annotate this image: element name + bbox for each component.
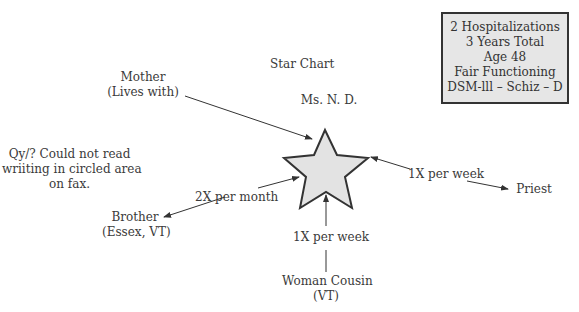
fax-note: Qy/? Could not read wriiting in circled … bbox=[2, 147, 137, 192]
node-priest: Priest bbox=[514, 182, 554, 197]
edge-label-brother: 2X per month bbox=[195, 190, 275, 205]
node-mother-detail: (Lives with) bbox=[98, 85, 188, 100]
node-cousin: Woman Cousin (VT) bbox=[282, 274, 370, 304]
node-brother: Brother (Essex, VT) bbox=[102, 210, 168, 240]
node-mother: Mother (Lives with) bbox=[98, 70, 188, 100]
priest-arrow-to-star bbox=[371, 157, 410, 169]
fax-note-line: Qy/? Could not read bbox=[2, 147, 137, 162]
chart-title: Star Chart bbox=[270, 57, 334, 72]
subject-name: Ms. N. D. bbox=[299, 93, 359, 108]
info-line: 3 Years Total bbox=[443, 35, 567, 50]
edge-label-cousin: 1X per week bbox=[293, 230, 359, 245]
brother-arrow-to-star bbox=[258, 177, 299, 188]
info-line: DSM-lll – Schiz – D bbox=[443, 80, 567, 95]
mother-arrow bbox=[185, 96, 312, 139]
info-line: Age 48 bbox=[443, 50, 567, 65]
fax-note-line: wriiting in circled area bbox=[2, 162, 137, 177]
info-line: Fair Functioning bbox=[443, 65, 567, 80]
edge-label-priest: 1X per week bbox=[408, 167, 472, 182]
priest-arrow-to-priest bbox=[467, 181, 508, 189]
node-brother-detail: (Essex, VT) bbox=[102, 225, 168, 240]
node-cousin-detail: (VT) bbox=[282, 289, 370, 304]
fax-note-line: on fax. bbox=[2, 177, 137, 192]
node-mother-name: Mother bbox=[98, 70, 188, 85]
node-brother-name: Brother bbox=[102, 210, 168, 225]
info-box: 2 Hospitalizations 3 Years Total Age 48 … bbox=[441, 12, 569, 104]
info-line: 2 Hospitalizations bbox=[443, 20, 567, 35]
node-cousin-name: Woman Cousin bbox=[282, 274, 370, 289]
